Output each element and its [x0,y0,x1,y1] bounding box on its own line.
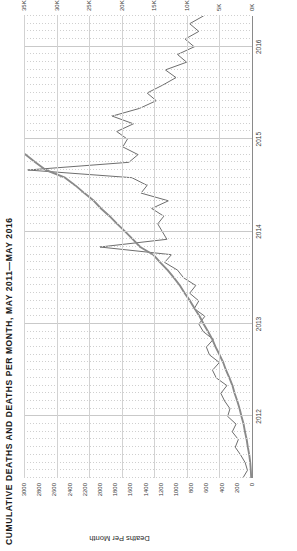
y-axis-right-tick-label: 20K [119,0,125,11]
vertical-gridline [24,238,252,239]
vertical-gridline [24,84,252,85]
y-axis-left-tick-label: 3000 [21,483,27,496]
vertical-gridline [24,261,252,262]
vertical-gridline [24,200,252,201]
y-axis-left-tick-label: 0 [249,483,255,486]
y-axis-left-tick-label: 400 [219,483,225,493]
y-axis-left-tick-label: 2000 [97,483,103,496]
y-axis-right-tick-label: 0K [249,4,255,11]
vertical-gridline [24,277,252,278]
y-axis-right-tick-label: 15K [151,0,157,11]
y-axis-left-tick-label: 200 [234,483,240,493]
horizontal-gridline [24,16,25,478]
vertical-gridline [24,38,252,39]
rotated-chart-stage: CUMULATIVE DEATHS AND DEATHS PER MONTH, … [0,0,297,551]
vertical-gridline [24,431,252,432]
horizontal-gridline [187,16,188,478]
vertical-gridline [24,77,252,78]
x-axis-tick-label: 2014 [255,224,262,238]
vertical-gridline [24,23,252,24]
y-axis-right-tick-label: 10K [184,0,190,11]
y-axis-right-tick-label: 35K [21,0,27,11]
vertical-gridline [24,215,252,216]
y-axis-left-ticks: 0200400600800100012001400160018002000220… [24,483,252,533]
vertical-gridline [24,400,252,401]
y-axis-left-tick-label: 1800 [112,483,118,496]
vertical-gridline [24,115,252,116]
x-axis-line [252,16,253,478]
horizontal-gridline [57,16,58,478]
y-axis-left-tick-label: 2800 [36,483,42,496]
horizontal-gridline [219,16,220,478]
vertical-gridline [24,177,252,178]
y-axis-left-tick-label: 2400 [67,483,73,496]
chart-title: CUMULATIVE DEATHS AND DEATHS PER MONTH, … [4,217,14,545]
vertical-gridline [24,54,252,55]
x-axis-tick-label: 2013 [255,317,262,331]
vertical-gridline [24,30,252,31]
plot-area [24,16,252,478]
vertical-gridline [24,107,252,108]
y-axis-right-ticks: 0K5K10K15K20K25K30K35K [24,0,252,14]
y-axis-left-title: Deaths Per Month [60,534,180,543]
vertical-gridline [24,100,252,101]
vertical-gridline [24,300,252,301]
y-axis-left-tick-label: 2200 [82,483,88,496]
x-axis-ticks: 20122013201420152016 [255,16,269,478]
vertical-gridline [24,462,252,463]
y-axis-left-tick-label: 1600 [127,483,133,496]
horizontal-gridline [122,16,123,478]
vertical-gridline [24,192,252,193]
vertical-gridline [24,285,252,286]
vertical-gridline [24,331,252,332]
vertical-gridline [24,423,252,424]
y-axis-left-tick-label: 1200 [158,483,164,496]
x-axis-tick-label: 2015 [255,132,262,146]
vertical-gridline [24,131,252,132]
vertical-gridline [24,61,252,62]
vertical-gridline [24,69,252,70]
vertical-gridline [24,385,252,386]
vertical-gridline [24,346,252,347]
x-axis-tick-label: 2012 [255,409,262,423]
vertical-gridline [24,269,252,270]
vertical-gridline-major [24,46,252,47]
vertical-gridline [24,315,252,316]
vertical-gridline [24,154,252,155]
horizontal-gridline [154,16,155,478]
vertical-gridline [24,184,252,185]
vertical-gridline [24,161,252,162]
vertical-gridline [24,223,252,224]
vertical-gridline-major [24,231,252,232]
vertical-gridline [24,454,252,455]
vertical-gridline [24,123,252,124]
vertical-gridline [24,377,252,378]
vertical-gridline-major [24,415,252,416]
y-axis-right-tick-label: 25K [86,0,92,11]
y-axis-right-tick-label: 5K [216,4,222,11]
vertical-gridline-major [24,323,252,324]
vertical-gridline [24,254,252,255]
vertical-gridline [24,15,252,16]
y-axis-left-tick-label: 2600 [51,483,57,496]
vertical-gridline [24,292,252,293]
vertical-gridline [24,146,252,147]
vertical-gridline [24,208,252,209]
vertical-gridline [24,169,252,170]
x-axis-tick-label: 2016 [255,40,262,54]
y-axis-left-tick-label: 1000 [173,483,179,496]
vertical-gridline [24,338,252,339]
vertical-gridline [24,92,252,93]
y-axis-left-tick-label: 800 [188,483,194,493]
vertical-gridline [24,477,252,478]
vertical-gridline [24,362,252,363]
y-axis-left-tick-label: 1400 [143,483,149,496]
vertical-gridline [24,392,252,393]
vertical-gridline [24,446,252,447]
vertical-gridline [24,439,252,440]
vertical-gridline [24,308,252,309]
vertical-gridline-major [24,138,252,139]
vertical-gridline [24,246,252,247]
y-axis-left-tick-label: 600 [203,483,209,493]
vertical-gridline [24,354,252,355]
